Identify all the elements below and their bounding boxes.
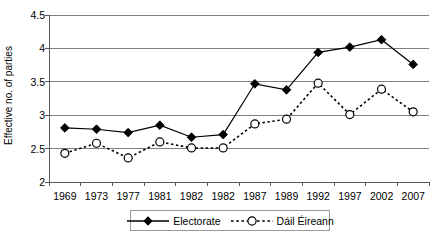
x-tick-label: 1987 — [239, 188, 271, 204]
series-line-electorate — [65, 40, 413, 138]
data-series-layer — [60, 35, 417, 162]
legend-entry-electorate: Electorate — [126, 211, 220, 230]
data-point-circle — [61, 149, 69, 157]
data-point-diamond — [60, 123, 69, 132]
data-point-circle — [124, 154, 132, 162]
data-point-diamond — [155, 121, 164, 130]
data-point-circle — [251, 120, 259, 128]
series-line-d-il-ireann — [65, 83, 413, 158]
data-point-diamond — [124, 128, 133, 137]
x-tick-label: 1989 — [271, 188, 303, 204]
chart-container: Effective no. of parties 22.533.544.5 19… — [0, 0, 442, 237]
data-point-circle — [93, 139, 101, 147]
x-tick-label: 1997 — [334, 188, 366, 204]
data-point-diamond — [92, 125, 101, 134]
legend-label-electorate: Electorate — [173, 215, 220, 227]
data-point-circle — [219, 144, 227, 152]
data-point-circle — [378, 85, 386, 93]
chart-legend: Electorate Dáil Éireann — [130, 210, 330, 231]
data-point-circle — [156, 138, 164, 146]
legend-swatch-solid-diamond-icon — [126, 214, 170, 228]
x-tick-label: 1969 — [49, 188, 81, 204]
data-point-circle — [283, 115, 291, 123]
x-tick-label: 1982 — [207, 188, 239, 204]
x-tick-label: 2002 — [366, 188, 398, 204]
legend-entry-dail-eireann: Dáil Éireann — [230, 211, 334, 230]
x-tick-label: 1992 — [302, 188, 334, 204]
legend-label-dail-eireann: Dáil Éireann — [277, 215, 334, 227]
gridlines — [49, 15, 429, 149]
x-tick-label: 1982 — [176, 188, 208, 204]
data-point-diamond — [345, 43, 354, 52]
data-point-diamond — [250, 79, 259, 88]
data-point-diamond — [219, 130, 228, 139]
x-tick-label: 1973 — [81, 188, 113, 204]
data-point-circle — [314, 79, 322, 87]
x-axis-tick-labels: 1969197319771981198219821987198919921997… — [49, 188, 429, 204]
data-point-diamond — [187, 133, 196, 142]
x-tick-label: 1977 — [112, 188, 144, 204]
x-tick-label: 2007 — [397, 188, 429, 204]
legend-swatch-dotted-circle-icon — [230, 214, 274, 228]
data-point-circle — [346, 111, 354, 119]
x-axis-ticks — [49, 182, 429, 186]
axis-frame — [45, 15, 429, 182]
x-tick-label: 1981 — [144, 188, 176, 204]
data-point-circle — [188, 144, 196, 152]
data-point-circle — [409, 108, 417, 116]
